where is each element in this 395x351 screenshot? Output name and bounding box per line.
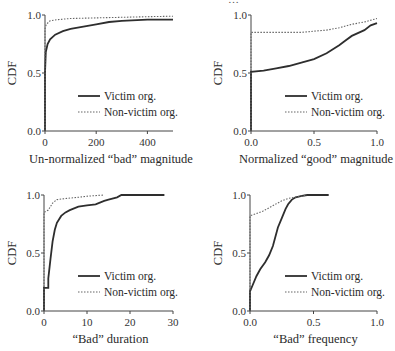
legend-victim-label: Victim org. bbox=[311, 270, 363, 283]
legend-nonvictim-label: Non-victim org. bbox=[104, 106, 178, 119]
legend-nonvictim-label: Non-victim org. bbox=[104, 286, 178, 299]
x-tick-label: 1.0 bbox=[370, 316, 384, 328]
x-tick-label: 1.0 bbox=[370, 136, 384, 148]
y-axis-label: CDF bbox=[211, 241, 225, 265]
y-tick-label: 0.0 bbox=[26, 305, 40, 317]
y-tick-label: 0.0 bbox=[27, 125, 41, 137]
y-tick-label: 1.0 bbox=[233, 9, 247, 21]
cdf-chart-3: 0.00.51.00102030“Bad” durationCDFVictim … bbox=[5, 189, 179, 346]
legend-nonvictim-label: Non-victim org. bbox=[311, 286, 385, 299]
cdf-chart-2: 0.00.51.00.00.51.0Normalized “good” magn… bbox=[211, 9, 394, 166]
x-tick-label: 10 bbox=[82, 316, 94, 328]
legend-victim-label: Victim org. bbox=[104, 90, 156, 103]
x-axis-label: “Bad” frequency bbox=[273, 332, 358, 346]
y-tick-label: 0.5 bbox=[233, 67, 247, 79]
x-tick-label: 30 bbox=[168, 316, 180, 328]
x-tick-label: 0.0 bbox=[244, 136, 258, 148]
x-tick-label: 0 bbox=[42, 136, 48, 148]
x-axis-label: Un-normalized “bad” magnitude bbox=[29, 152, 193, 166]
y-axis-label: CDF bbox=[211, 61, 225, 85]
cdf-chart-4: 0.00.51.00.00.51.0“Bad” frequencyCDFVict… bbox=[211, 189, 385, 346]
y-axis-label: CDF bbox=[5, 241, 19, 265]
cdf-figure-grid: 0.00.51.00200400Un-normalized “bad” magn… bbox=[0, 0, 395, 351]
y-tick-label: 1.0 bbox=[26, 189, 40, 201]
legend-nonvictim-label: Non-victim org. bbox=[311, 106, 385, 119]
x-tick-label: 0.5 bbox=[307, 316, 321, 328]
y-axis-label: CDF bbox=[5, 61, 19, 85]
legend: Victim org.Non-victim org. bbox=[285, 270, 385, 299]
x-tick-label: 0.5 bbox=[307, 136, 321, 148]
x-axis-label: “Bad” duration bbox=[72, 332, 149, 346]
x-tick-label: 0 bbox=[41, 316, 47, 328]
y-tick-label: 0.5 bbox=[232, 247, 246, 259]
cdf-chart-1: 0.00.51.00200400Un-normalized “bad” magn… bbox=[5, 9, 193, 166]
legend-victim-label: Victim org. bbox=[104, 270, 156, 283]
y-tick-label: 0.5 bbox=[26, 247, 40, 259]
y-tick-label: 1.0 bbox=[27, 9, 41, 21]
legend: Victim org.Non-victim org. bbox=[285, 90, 385, 119]
y-tick-label: 1.0 bbox=[232, 189, 246, 201]
nonvictim-series-line bbox=[250, 195, 307, 311]
x-tick-label: 0.0 bbox=[243, 316, 257, 328]
legend: Victim org.Non-victim org. bbox=[78, 90, 178, 119]
x-axis-label: Normalized “good” magnitude bbox=[239, 152, 394, 166]
legend: Victim org.Non-victim org. bbox=[78, 270, 178, 299]
legend-victim-label: Victim org. bbox=[311, 90, 363, 103]
nonvictim-series-line bbox=[44, 195, 104, 311]
x-tick-label: 20 bbox=[125, 316, 137, 328]
x-tick-label: 400 bbox=[139, 136, 156, 148]
y-tick-label: 0.5 bbox=[27, 67, 41, 79]
x-tick-label: 200 bbox=[88, 136, 105, 148]
